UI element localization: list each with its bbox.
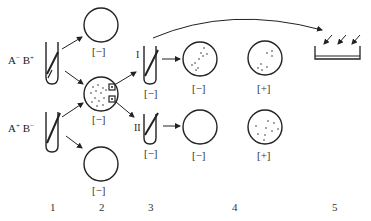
plate-I-complete xyxy=(248,41,282,75)
medium-label-step2-top: [−] xyxy=(92,46,106,57)
tube-I xyxy=(144,46,158,84)
tube-II-label: II xyxy=(134,123,141,133)
tube-I-label: I xyxy=(136,50,139,60)
plate-II-minimal xyxy=(183,110,217,144)
step-number-4: 4 xyxy=(232,202,238,213)
plate-step2-top xyxy=(84,8,118,42)
tube-a-minus-b-plus xyxy=(46,42,58,84)
strain-label-a-plus-b-minus: A+ B− xyxy=(8,123,34,134)
plate-step2-middle-colonies xyxy=(84,77,118,111)
dish-with-rays xyxy=(315,35,360,59)
medium-label-plate-I-minimal: [−] xyxy=(192,83,206,94)
step-number-1: 1 xyxy=(50,202,56,213)
step-number-5: 5 xyxy=(332,202,338,213)
step-number-2: 2 xyxy=(99,202,105,213)
step-number-3: 3 xyxy=(148,202,154,213)
arrows-tube-to-plate xyxy=(62,37,83,148)
medium-label-plate-II-complete: [+] xyxy=(257,150,271,161)
tube-II xyxy=(144,113,158,144)
medium-label-step2-bottom: [−] xyxy=(92,185,106,196)
medium-label-plate-I-complete: [+] xyxy=(257,83,271,94)
medium-label-step2-middle: [−] xyxy=(92,114,106,125)
plate-step2-bottom xyxy=(84,147,118,181)
medium-label-tube-II: [−] xyxy=(144,148,158,159)
tube-a-plus-b-minus xyxy=(46,112,60,152)
plate-I-minimal xyxy=(183,42,217,76)
arrows-colony-to-tube xyxy=(116,72,136,117)
medium-label-tube-I: [−] xyxy=(144,88,158,99)
curved-arrow-to-step5 xyxy=(153,19,322,38)
strain-label-a-minus-b-plus: A− B+ xyxy=(8,55,34,66)
medium-label-plate-II-minimal: [−] xyxy=(192,150,206,161)
plate-II-complete xyxy=(248,110,282,144)
replica-plating-diagram xyxy=(0,0,371,221)
arrows-tube-to-plate-step4 xyxy=(162,59,180,126)
